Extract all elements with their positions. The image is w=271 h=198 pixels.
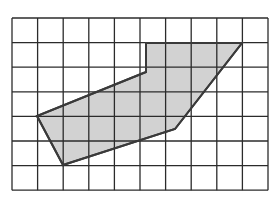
- grid-figure: [0, 0, 271, 198]
